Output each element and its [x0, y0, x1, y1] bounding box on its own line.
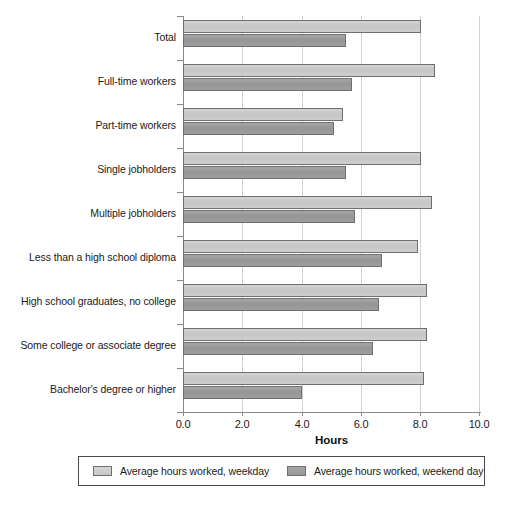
bar-weekday-1	[183, 64, 435, 77]
category-label-full-time-workers: Full-time workers	[0, 75, 176, 87]
bar-weekend-4	[183, 210, 355, 223]
y-axis-tick	[177, 236, 183, 237]
bar-weekday-5	[183, 240, 418, 253]
x-axis-line	[183, 412, 481, 413]
x-tick-label-1: 2.0	[222, 418, 262, 430]
x-tick-label-4: 8.0	[400, 418, 440, 430]
category-label-some-college: Some college or associate degree	[0, 339, 176, 351]
y-axis-tick	[177, 368, 183, 369]
x-tick-label-0: 0.0	[163, 418, 203, 430]
y-axis-tick	[177, 192, 183, 193]
legend-swatch-weekday-icon	[93, 466, 112, 476]
bar-weekday-4	[183, 196, 432, 209]
y-axis-tick	[177, 16, 183, 17]
bar-weekend-0	[183, 34, 346, 47]
bar-weekday-3	[183, 152, 421, 165]
legend-entry-weekend: Average hours worked, weekend day	[287, 465, 483, 477]
x-tick-label-5: 10.0	[459, 418, 499, 430]
bar-weekday-0	[183, 20, 421, 33]
category-label-part-time-workers: Part-time workers	[0, 119, 176, 131]
category-label-less-than-high-school: Less than a high school diploma	[0, 251, 176, 263]
category-label-high-school-graduates: High school graduates, no college	[0, 295, 176, 307]
y-axis-tick	[177, 104, 183, 105]
category-label-single-jobholders: Single jobholders	[0, 163, 176, 175]
category-label-multiple-jobholders: Multiple jobholders	[0, 207, 176, 219]
x-axis-tick	[361, 412, 362, 416]
chart-legend: Average hours worked, weekday Average ho…	[78, 456, 485, 486]
bar-weekend-3	[183, 166, 346, 179]
legend-swatch-weekend-icon	[287, 466, 306, 476]
bar-weekend-8	[183, 386, 302, 399]
bar-chart-figure: 0.0 2.0 4.0 6.0 8.0 10.0 Hours Total Ful…	[0, 0, 510, 507]
bar-weekend-7	[183, 342, 373, 355]
bar-weekend-6	[183, 298, 379, 311]
category-label-bachelors-degree: Bachelor's degree or higher	[0, 383, 176, 395]
category-label-total: Total	[0, 31, 176, 43]
bar-weekday-7	[183, 328, 427, 341]
bar-weekday-8	[183, 372, 424, 385]
bar-weekend-5	[183, 254, 382, 267]
x-axis-tick	[242, 412, 243, 416]
legend-label-weekend: Average hours worked, weekend day	[314, 465, 483, 477]
bar-weekday-6	[183, 284, 427, 297]
x-tick-label-3: 6.0	[341, 418, 381, 430]
y-axis-tick	[177, 148, 183, 149]
bar-weekend-1	[183, 78, 352, 91]
bar-weekend-2	[183, 122, 334, 135]
x-axis-title: Hours	[183, 434, 480, 446]
legend-label-weekday: Average hours worked, weekday	[120, 465, 269, 477]
y-axis-tick	[177, 324, 183, 325]
x-axis-tick	[302, 412, 303, 416]
x-axis-tick	[479, 412, 480, 416]
x-axis-tick	[183, 412, 184, 416]
gridline-10	[479, 16, 480, 412]
legend-entry-weekday: Average hours worked, weekday	[93, 465, 269, 477]
bar-weekday-2	[183, 108, 343, 121]
y-axis-tick	[177, 60, 183, 61]
y-axis-tick	[177, 280, 183, 281]
x-tick-label-2: 4.0	[282, 418, 322, 430]
x-axis-tick	[420, 412, 421, 416]
